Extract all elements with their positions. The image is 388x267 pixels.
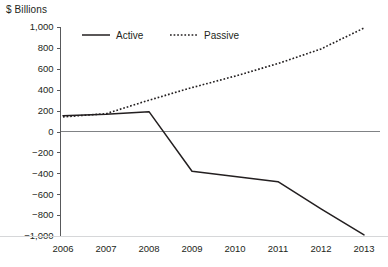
x-tick-label: 2010 <box>224 243 245 254</box>
y-tick-label: −1,000 <box>24 230 53 241</box>
x-tick-group: 20062007200820092010201120122013 <box>52 243 374 254</box>
y-tick-label: −200 <box>32 147 53 158</box>
x-tick-label: 2013 <box>353 243 374 254</box>
y-tick-label: 800 <box>38 42 54 53</box>
y-tick-label: 600 <box>38 63 54 74</box>
y-tick-label: 200 <box>38 105 54 116</box>
chart-legend: ActivePassive <box>82 30 239 41</box>
y-tick-label: 1,000 <box>30 21 54 32</box>
x-tick-label: 2007 <box>95 243 116 254</box>
legend-label-active: Active <box>116 30 144 41</box>
x-tick-label: 2006 <box>52 243 73 254</box>
line-chart-plot: 1,0008006004002000−200−400−600−800−1,000… <box>0 0 388 267</box>
y-tick-label: −600 <box>32 189 53 200</box>
y-tick-label: −400 <box>32 168 53 179</box>
y-tick-group: 1,0008006004002000−200−400−600−800−1,000 <box>24 21 60 241</box>
y-axis-group: 1,0008006004002000−200−400−600−800−1,000 <box>24 21 60 241</box>
legend-label-passive: Passive <box>204 30 239 41</box>
chart-container: $ Billions 1,0008006004002000−200−400−60… <box>0 0 388 267</box>
y-tick-label: 400 <box>38 84 54 95</box>
x-tick-label: 2011 <box>268 243 288 254</box>
y-tick-label: −800 <box>32 209 53 220</box>
x-tick-label: 2009 <box>181 243 202 254</box>
x-tick-label: 2012 <box>310 243 331 254</box>
series-line-active <box>63 112 364 235</box>
y-tick-label: 0 <box>48 126 53 137</box>
x-tick-label: 2008 <box>138 243 159 254</box>
series-line-passive <box>63 28 364 117</box>
